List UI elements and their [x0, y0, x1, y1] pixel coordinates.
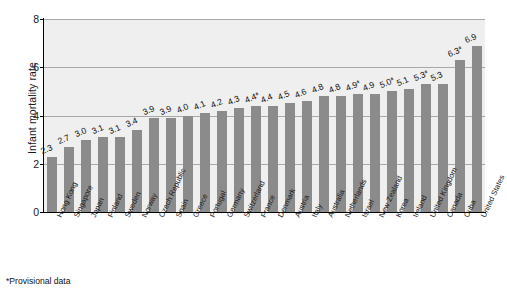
bar-value-label: 4.1 — [192, 98, 207, 112]
x-tick-label: Spain — [174, 197, 190, 218]
x-tick-label: Austria — [293, 194, 311, 219]
bar-value-label: 3.0 — [73, 125, 88, 139]
bar-value-label: 4.6 — [293, 86, 308, 100]
x-tick-label: Italy — [310, 202, 324, 218]
bar-value-label: 3.1 — [90, 122, 105, 136]
bar-value-label: 3.4 — [124, 115, 139, 129]
bar-value-label: 3.9 — [141, 103, 156, 117]
bar-value-label: 2.3 — [39, 142, 54, 156]
x-tick-label: Israel — [360, 198, 376, 219]
x-tick-label: Ireland — [411, 194, 429, 219]
bar-value-label: 4.9 — [361, 79, 376, 93]
bar-value-label: 4.0 — [175, 101, 190, 115]
bar-value-label: 4.9* — [344, 78, 362, 93]
footnote-provisional-data: *Provisional data — [6, 276, 71, 286]
bar-value-label: 3.1 — [107, 122, 122, 136]
bar-value-label: 5.0* — [378, 75, 396, 90]
bar-value-label: 6.3* — [446, 44, 464, 59]
x-tick-label: France — [259, 194, 277, 219]
bar-value-label: 3.9 — [158, 103, 173, 117]
x-tick-label: United States — [479, 174, 506, 219]
bar-value-label: 5.3 — [429, 69, 444, 83]
bar-value-label: 4.8 — [310, 81, 325, 95]
bar-value-label: 4.4* — [243, 90, 261, 105]
bar-value-label: 5.3* — [412, 68, 430, 83]
bar-value-label: 5.1 — [395, 74, 410, 88]
bar-value-label: 4.8 — [327, 81, 342, 95]
x-tick-label: Japan — [89, 196, 106, 219]
bar-value-label: 2.7 — [56, 132, 71, 146]
bar-value-label: 4.4 — [260, 91, 275, 105]
bar-value-label: 6.9 — [463, 31, 478, 45]
x-tick-label: Greece — [191, 192, 210, 218]
x-tick-label: Korea — [394, 197, 411, 219]
bar-value-label: 4.2 — [209, 96, 224, 110]
bar-value-label: 4.3 — [226, 93, 241, 107]
x-tick-label: Cuba — [462, 199, 478, 219]
bar-value-label: 4.5 — [277, 89, 292, 103]
